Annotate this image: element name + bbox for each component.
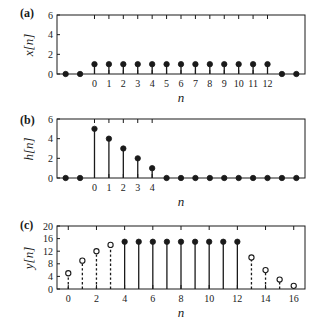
x-tick-label: 2 xyxy=(94,293,99,304)
y-tick-label: 0 xyxy=(48,69,53,80)
x-tick-label: 14 xyxy=(261,293,271,304)
panel-a-xlabel: n xyxy=(57,90,305,106)
data-point-marker xyxy=(279,71,284,76)
x-tick-label: 9 xyxy=(222,78,227,89)
data-point-marker xyxy=(135,156,140,161)
panel-c-xlabel: n xyxy=(57,305,305,321)
data-point-marker xyxy=(164,175,169,180)
y-tick-label: 0 xyxy=(48,284,53,295)
x-tick-label: 1 xyxy=(106,182,111,193)
x-tick-label: 4 xyxy=(150,78,155,89)
y-tick-label: 12 xyxy=(43,246,53,257)
x-tick-label: 8 xyxy=(179,293,184,304)
data-point-marker xyxy=(265,175,270,180)
data-point-marker xyxy=(106,61,111,66)
y-tick-label: 4 xyxy=(48,271,53,282)
panel-c: (c) y[n] 0481216200246810121416 n xyxy=(0,212,318,327)
data-point-marker xyxy=(206,239,211,244)
y-tick-label: 16 xyxy=(43,233,53,244)
y-tick-label: 20 xyxy=(43,221,53,232)
data-point-marker xyxy=(178,61,183,66)
data-point-marker xyxy=(136,239,141,244)
data-point-marker xyxy=(250,61,255,66)
data-point-marker xyxy=(250,175,255,180)
x-tick-label: 4 xyxy=(150,182,155,193)
data-point-marker xyxy=(122,239,127,244)
y-tick-label: 0 xyxy=(48,173,53,184)
data-point-marker xyxy=(263,268,268,273)
x-tick-label: 1 xyxy=(106,78,111,89)
panel-b-ylabel: h[n] xyxy=(21,134,37,164)
data-point-marker xyxy=(94,249,99,254)
data-point-marker xyxy=(63,71,68,76)
data-point-marker xyxy=(150,239,155,244)
data-point-marker xyxy=(279,175,284,180)
data-point-marker xyxy=(178,175,183,180)
data-point-marker xyxy=(207,175,212,180)
x-tick-label: 0 xyxy=(92,182,97,193)
x-tick-label: 11 xyxy=(248,78,258,89)
x-tick-label: 12 xyxy=(232,293,242,304)
data-point-marker xyxy=(291,283,296,288)
data-point-marker xyxy=(63,175,68,180)
panel-a: (a) x[n] 02460123456789101112 n xyxy=(0,0,318,107)
data-point-marker xyxy=(192,239,197,244)
panel-a-tag: (a) xyxy=(20,6,34,21)
data-point-marker xyxy=(294,175,299,180)
x-tick-label: 5 xyxy=(164,78,169,89)
data-point-marker xyxy=(121,146,126,151)
data-point-marker xyxy=(77,71,82,76)
data-point-marker xyxy=(164,239,169,244)
data-point-marker xyxy=(121,61,126,66)
data-point-marker xyxy=(265,61,270,66)
x-tick-label: 2 xyxy=(121,78,126,89)
x-tick-label: 3 xyxy=(135,78,140,89)
x-tick-label: 0 xyxy=(92,78,97,89)
panel-c-ylabel: y[n] xyxy=(21,243,37,273)
data-point-marker xyxy=(236,61,241,66)
data-point-marker xyxy=(236,175,241,180)
data-point-marker xyxy=(164,61,169,66)
x-tick-label: 8 xyxy=(207,78,212,89)
panel-c-tag: (c) xyxy=(20,218,33,233)
data-point-marker xyxy=(149,61,154,66)
data-point-marker xyxy=(207,61,212,66)
x-tick-label: 7 xyxy=(193,78,198,89)
data-point-marker xyxy=(106,136,111,141)
data-point-marker xyxy=(77,175,82,180)
data-point-marker xyxy=(92,61,97,66)
data-point-marker xyxy=(66,271,71,276)
y-tick-label: 2 xyxy=(48,153,53,164)
x-tick-label: 0 xyxy=(66,293,71,304)
stem-plot-figure: (a) x[n] 02460123456789101112 n (b) h[n]… xyxy=(0,0,318,327)
y-tick-label: 6 xyxy=(48,114,53,125)
data-point-marker xyxy=(235,239,240,244)
data-point-marker xyxy=(80,258,85,263)
y-tick-label: 4 xyxy=(48,29,53,40)
x-tick-label: 10 xyxy=(204,293,214,304)
y-tick-label: 8 xyxy=(48,258,53,269)
y-tick-label: 2 xyxy=(48,49,53,60)
y-tick-label: 4 xyxy=(48,133,53,144)
data-point-marker xyxy=(193,175,198,180)
data-point-marker xyxy=(149,165,154,170)
data-point-marker xyxy=(221,239,226,244)
x-tick-label: 3 xyxy=(135,182,140,193)
data-point-marker xyxy=(92,126,97,131)
data-point-marker xyxy=(222,61,227,66)
data-point-marker xyxy=(193,61,198,66)
x-tick-label: 2 xyxy=(121,182,126,193)
x-tick-label: 4 xyxy=(122,293,127,304)
data-point-marker xyxy=(178,239,183,244)
panel-b-xlabel: n xyxy=(57,194,305,210)
data-point-marker xyxy=(277,277,282,282)
x-tick-label: 12 xyxy=(263,78,273,89)
data-point-marker xyxy=(135,61,140,66)
y-tick-label: 6 xyxy=(48,10,53,21)
data-point-marker xyxy=(294,71,299,76)
x-tick-label: 16 xyxy=(289,293,299,304)
x-tick-label: 10 xyxy=(234,78,244,89)
x-tick-label: 6 xyxy=(150,293,155,304)
data-point-marker xyxy=(249,255,254,260)
panel-b-tag: (b) xyxy=(20,113,35,128)
